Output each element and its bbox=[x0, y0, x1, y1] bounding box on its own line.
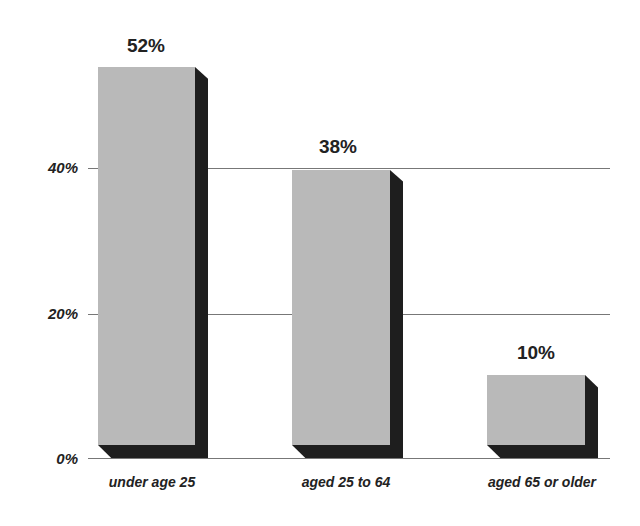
bar-under-25 bbox=[98, 67, 195, 445]
value-label: 52% bbox=[96, 35, 196, 57]
bar-shadow bbox=[195, 67, 208, 458]
bar-shadow bbox=[487, 445, 598, 458]
category-label: aged 65 or older bbox=[462, 474, 622, 490]
bar-shadow bbox=[390, 170, 403, 458]
ytick-20: 20% bbox=[28, 305, 78, 322]
bar-65-older bbox=[487, 375, 585, 445]
value-label: 38% bbox=[288, 136, 388, 158]
gridline-0 bbox=[88, 458, 610, 459]
category-label: aged 25 to 64 bbox=[266, 474, 426, 490]
ytick-0: 0% bbox=[28, 450, 78, 467]
ytick-40: 40% bbox=[28, 159, 78, 176]
category-label: under age 25 bbox=[72, 474, 232, 490]
value-label: 10% bbox=[486, 342, 586, 364]
bar-shadow bbox=[292, 445, 403, 458]
bar-shadow bbox=[98, 445, 208, 458]
bar-25-to-64 bbox=[292, 170, 390, 445]
